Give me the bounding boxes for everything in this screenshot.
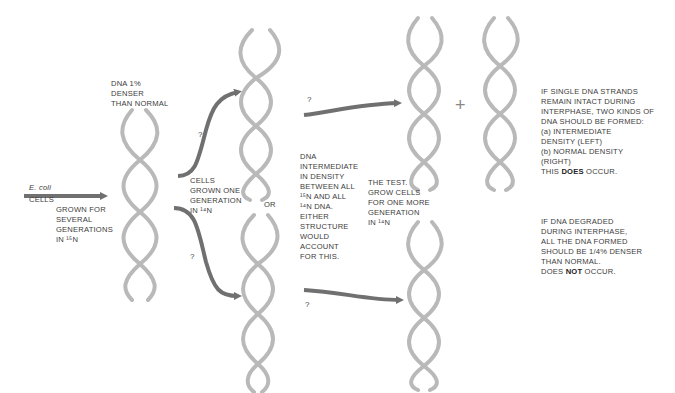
question-mark-test-lower: ? — [305, 300, 309, 309]
cells-label: CELLS — [29, 195, 54, 205]
degraded-hypothesis-label: IF DNA DEGRADED DURING INTERPHASE, ALL T… — [541, 217, 642, 277]
grown-several-label: GROWN FOR SEVERAL GENERATIONS IN ¹⁵N — [56, 205, 113, 245]
helix-gen1-upper — [240, 30, 279, 200]
question-mark-lower: ? — [190, 252, 194, 261]
intact-result: THIS DOES OCCUR. — [541, 167, 654, 177]
intermediate-label: DNA INTERMEDIATE IN DENSITY BETWEEN ALL … — [300, 152, 358, 262]
arrow-lower-branch — [174, 208, 238, 296]
helix-parental — [122, 110, 157, 300]
grown-one-label: CELLS GROWN ONE GENERATION IN ¹⁴N — [190, 176, 242, 216]
question-mark-test-upper: ? — [307, 95, 311, 104]
arrow-test-upper — [304, 103, 398, 115]
arrow-upper-branch — [178, 92, 238, 176]
test-label: THE TEST. GROW CELLS FOR ONE MORE GENERA… — [368, 178, 430, 228]
plus-sign: + — [455, 96, 466, 114]
ecoli-label: E. coli — [29, 183, 51, 193]
question-mark-upper: ? — [198, 130, 202, 139]
helix-gen2-normal — [484, 18, 518, 190]
helix-gen2-intermediate — [408, 18, 442, 190]
arrow-test-lower — [304, 290, 400, 300]
dna-denser-label: DNA 1% DENSER THAN NORMAL — [111, 79, 168, 109]
helix-gen1-lower — [242, 215, 277, 392]
intact-hypothesis-label: IF SINGLE DNA STRANDS REMAIN INTACT DURI… — [541, 87, 654, 177]
helix-gen2-degraded — [408, 222, 442, 390]
degraded-result: DOES NOT OCCUR. — [541, 267, 642, 277]
or-label: OR — [264, 200, 276, 210]
